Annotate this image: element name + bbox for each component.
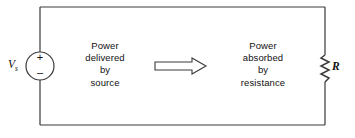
- caption-left-line-4: source: [62, 77, 148, 89]
- caption-left-line-2: delivered: [62, 52, 148, 64]
- source-polarity-minus: –: [33, 67, 47, 78]
- caption-left-line-3: by: [62, 64, 148, 76]
- caption-right-line-1: Power: [218, 40, 308, 52]
- caption-power-delivered-by-source: Power delivered by source: [62, 40, 148, 89]
- caption-power-absorbed-by-resistance: Power absorbed by resistance: [218, 40, 308, 89]
- resistor-icon: [321, 55, 329, 82]
- circuit-diagram-figure: + – Vs R Power delivered by source Power…: [0, 0, 355, 138]
- source-polarity-plus: +: [33, 52, 47, 63]
- resistor-label: R: [332, 60, 340, 72]
- source-label-letter: V: [8, 58, 15, 70]
- caption-right-line-3: by: [218, 64, 308, 76]
- caption-right-line-2: absorbed: [218, 52, 308, 64]
- source-label-subscript: s: [15, 64, 18, 73]
- power-flow-arrow-icon: [155, 58, 206, 74]
- caption-left-line-1: Power: [62, 40, 148, 52]
- source-label: Vs: [8, 58, 18, 73]
- caption-right-line-4: resistance: [218, 77, 308, 89]
